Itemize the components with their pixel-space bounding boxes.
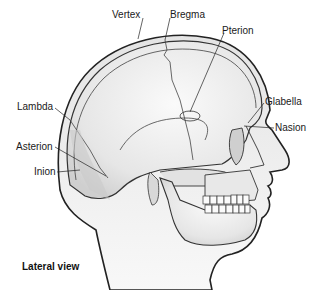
skull-diagram: Vertex Bregma Pterion Lambda Glabella Na…: [0, 0, 323, 290]
label-inion: Inion: [34, 167, 56, 177]
caption-lateral-view: Lateral view: [22, 261, 79, 272]
label-lambda: Lambda: [17, 102, 53, 112]
label-nasion: Nasion: [275, 123, 306, 133]
label-bregma: Bregma: [170, 10, 205, 20]
teeth: [203, 195, 250, 213]
label-pterion: Pterion: [222, 26, 254, 36]
label-vertex: Vertex: [112, 10, 140, 20]
label-glabella: Glabella: [265, 97, 302, 107]
label-asterion: Asterion: [16, 142, 53, 152]
